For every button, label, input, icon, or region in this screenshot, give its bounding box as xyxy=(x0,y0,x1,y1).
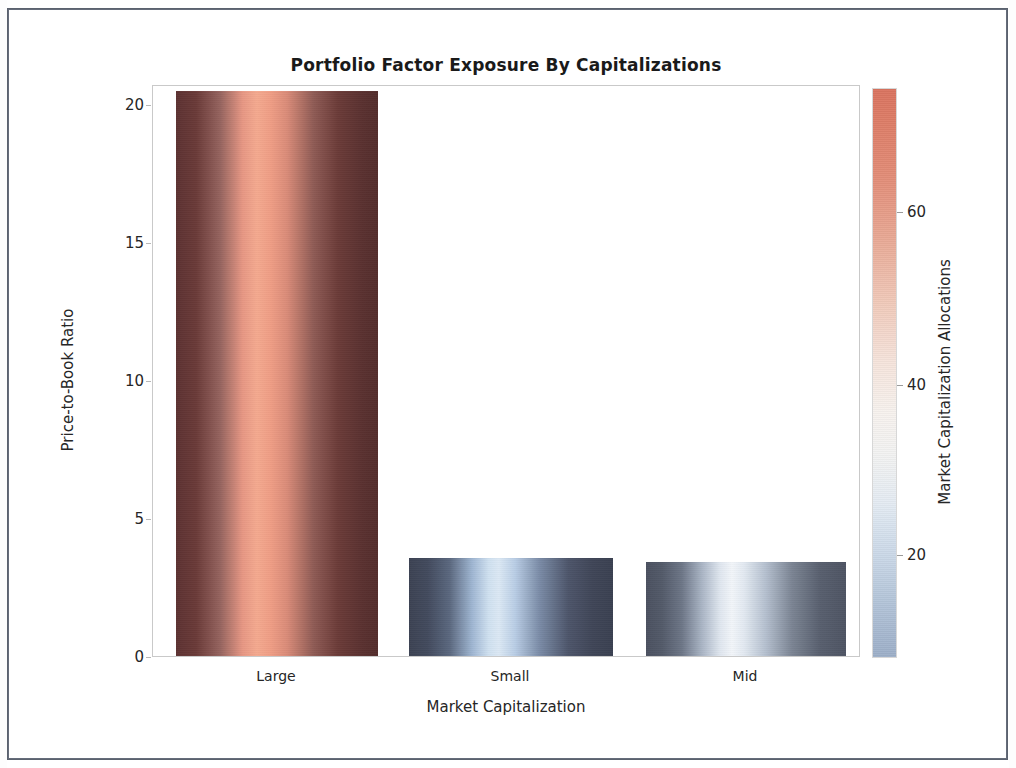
x-tick-label-large: Large xyxy=(256,668,295,684)
colorbar-tick-label-60: 60 xyxy=(907,203,926,221)
plot-area xyxy=(152,85,860,657)
x-tick-label-small: Small xyxy=(491,668,530,684)
y-tick-mark-15 xyxy=(146,243,151,244)
colorbar-tick-mark-20 xyxy=(897,555,903,556)
x-axis-title: Market Capitalization xyxy=(152,698,860,716)
colorbar-title: Market Capitalization Allocations xyxy=(936,97,954,667)
x-tick-label-mid: Mid xyxy=(733,668,758,684)
colorbar-tick-mark-40 xyxy=(897,385,903,386)
bar-large[interactable] xyxy=(176,91,378,656)
y-tick-label-20: 20 xyxy=(104,96,144,114)
y-tick-label-15: 15 xyxy=(104,234,144,252)
y-tick-mark-20 xyxy=(146,105,151,106)
chart-title: Portfolio Factor Exposure By Capitalizat… xyxy=(152,55,860,75)
bar-small[interactable] xyxy=(409,558,613,656)
y-tick-label-0: 0 xyxy=(104,648,144,666)
y-tick-mark-10 xyxy=(146,381,151,382)
colorbar-tick-label-20: 20 xyxy=(907,546,926,564)
colorbar-tick-mark-60 xyxy=(897,212,903,213)
y-axis-title: Price-to-Book Ratio xyxy=(59,94,77,666)
y-tick-label-5: 5 xyxy=(104,510,144,528)
y-tick-mark-5 xyxy=(146,519,151,520)
colorbar xyxy=(872,88,897,658)
y-tick-label-10: 10 xyxy=(104,372,144,390)
chart-figure: Portfolio Factor Exposure By Capitalizat… xyxy=(0,0,1016,768)
y-axis-tick-labels: 20 15 10 5 0 xyxy=(98,0,144,768)
y-tick-mark-0 xyxy=(146,657,151,658)
bar-mid[interactable] xyxy=(646,562,846,656)
colorbar-tick-label-40: 40 xyxy=(907,376,926,394)
